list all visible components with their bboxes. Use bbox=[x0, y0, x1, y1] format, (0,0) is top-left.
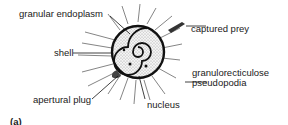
label-shell: shell bbox=[54, 48, 74, 58]
captured-prey-icon bbox=[168, 22, 185, 33]
label-apertural-plug: apertural plug bbox=[33, 95, 91, 105]
label-nucleus: nucleus bbox=[147, 100, 180, 110]
shell-icon bbox=[112, 26, 164, 78]
panel-label: (a) bbox=[10, 116, 22, 125]
label-captured-prey: captured prey bbox=[191, 24, 249, 34]
label-pseudopodia: pseudopodia bbox=[192, 78, 246, 88]
label-granular-endoplasm: granular endoplasm bbox=[19, 9, 103, 19]
